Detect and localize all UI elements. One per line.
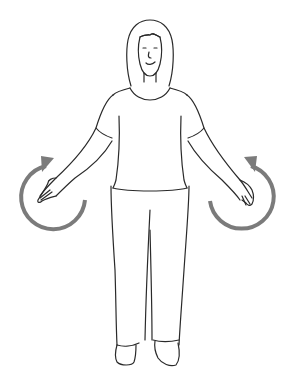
left-rotate-arrow-icon bbox=[21, 156, 85, 229]
right-arm bbox=[187, 95, 254, 205]
right-rotate-arrow-icon bbox=[210, 156, 274, 229]
shirt bbox=[113, 88, 187, 191]
pants bbox=[111, 186, 189, 346]
head bbox=[139, 34, 162, 82]
illustration-canvas: Woman standing with arms extended down a… bbox=[0, 0, 293, 383]
left-arm bbox=[38, 95, 113, 202]
shoes bbox=[116, 341, 180, 366]
figure-illustration bbox=[0, 0, 293, 383]
